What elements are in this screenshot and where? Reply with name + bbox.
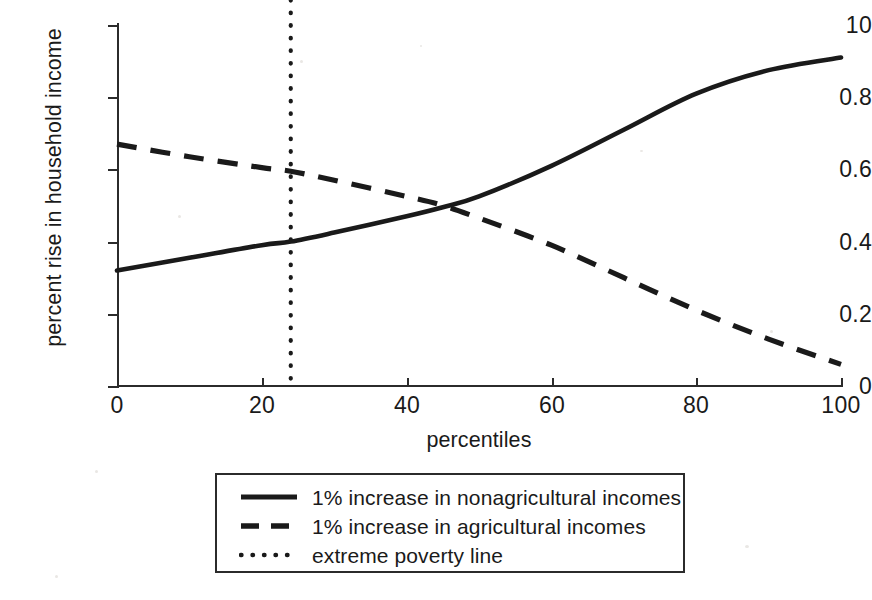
y-axis-title: percent rise in household income (42, 0, 67, 398)
y-axis-tick (108, 169, 117, 171)
dashed-line-icon (239, 518, 301, 534)
x-axis-tick-label: 20 (227, 394, 297, 417)
solid-line-icon (239, 489, 301, 505)
y-axis-tick (108, 314, 117, 316)
x-axis-tick-label: 40 (372, 394, 442, 417)
agricultural-incomes-curve (117, 144, 841, 364)
x-axis-tick-label: 60 (517, 394, 587, 417)
y-axis-tick (108, 25, 117, 27)
dotted-line-icon (239, 547, 301, 563)
chart-figure: 10 0.8 0.6 0.4 0.2 0 0 20 40 60 80 100 p… (0, 0, 872, 600)
legend-label: 1% increase in nonagricultural incomes (312, 487, 681, 508)
y-axis-tick (108, 386, 117, 388)
x-axis-title: percentiles (117, 428, 841, 453)
scan-speckle (745, 545, 749, 548)
legend-item-nonagricultural[interactable]: 1% increase in nonagricultural incomes (239, 483, 683, 511)
x-axis-tick-label: 100 (806, 394, 872, 417)
x-axis-tick-label: 80 (661, 394, 731, 417)
y-axis-tick (108, 242, 117, 244)
plot-curves (117, 25, 841, 386)
y-axis-tick (108, 97, 117, 99)
scan-speckle (55, 575, 58, 578)
scan-speckle (95, 470, 98, 473)
legend-item-agricultural[interactable]: 1% increase in agricultural incomes (239, 512, 683, 540)
legend-label: 1% increase in agricultural incomes (312, 516, 646, 537)
legend-label: extreme poverty line (312, 545, 503, 566)
chart-legend: 1% increase in nonagricultural incomes 1… (215, 473, 685, 573)
legend-item-poverty-line[interactable]: extreme poverty line (239, 541, 683, 569)
x-axis-tick-label: 0 (82, 394, 152, 417)
x-axis-tick (841, 378, 843, 387)
